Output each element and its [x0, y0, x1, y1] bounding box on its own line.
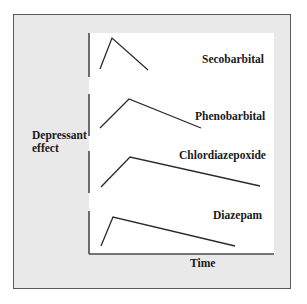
label-chlordiazepoxide: Chlordiazepoxide	[179, 150, 266, 162]
label-secobarbital: Secobarbital	[202, 54, 264, 66]
y-axis-label-line1: Depressant	[32, 129, 87, 142]
x-axis-label: Time	[190, 257, 215, 269]
y-axis-label: Depressant effect	[32, 129, 87, 155]
curve-secobarbital	[100, 38, 148, 70]
label-diazepam: Diazepam	[213, 210, 262, 222]
y-axis-label-line2: effect	[32, 142, 87, 155]
curve-chlordiazepoxide	[101, 157, 260, 187]
curve-phenobarbital	[100, 99, 201, 128]
label-phenobarbital: Phenobarbital	[195, 111, 265, 123]
